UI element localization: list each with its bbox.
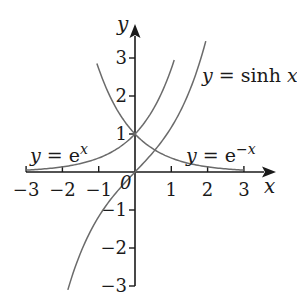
- label-exp-neg-base: e: [225, 144, 236, 166]
- y-axis-label: y: [116, 12, 129, 36]
- label-exp-neg: y = e−x: [185, 141, 256, 166]
- x-axis-label: x: [264, 174, 275, 198]
- x-tick-label: −2: [49, 179, 76, 200]
- label-sinh-lhs: y: [201, 64, 213, 86]
- label-sinh-fn: sinh: [241, 64, 281, 86]
- x-tick-label: 1: [166, 179, 177, 200]
- x-tick-label: −1: [85, 179, 112, 200]
- y-tick-label: 2: [116, 85, 127, 106]
- label-sinh-var: x: [287, 64, 297, 86]
- label-sinh: y = sinh x: [201, 64, 297, 86]
- origin-label: 0: [120, 172, 131, 193]
- y-tick-label: −1: [100, 199, 127, 220]
- plot-canvas: −3−2−1123 321−1−2−3 x y 0 y = ex y = e−x…: [0, 0, 297, 307]
- y-tick-label: 1: [116, 123, 127, 144]
- x-tick-label: 2: [202, 179, 213, 200]
- y-tick-label: −3: [100, 275, 127, 296]
- graph-figure: −3−2−1123 321−1−2−3 x y 0 y = ex y = e−x…: [0, 0, 297, 307]
- x-tick-label: −3: [13, 179, 40, 200]
- label-exp-lhs: y: [29, 144, 41, 166]
- x-tick-label: 3: [238, 179, 249, 200]
- label-exp-neg-lhs: y: [185, 144, 197, 166]
- label-exp-sup: x: [80, 141, 88, 157]
- label-exp-base: e: [69, 144, 80, 166]
- label-exp-neg-eq: =: [197, 144, 225, 166]
- label-exp-neg-sup: −x: [236, 141, 256, 157]
- y-tick-label: −2: [100, 237, 127, 258]
- y-tick-label: 3: [116, 47, 127, 68]
- label-exp: y = ex: [29, 141, 88, 166]
- label-exp-eq: =: [41, 144, 69, 166]
- label-sinh-eq: =: [213, 64, 241, 86]
- y-axis-arrow-icon: [130, 24, 141, 38]
